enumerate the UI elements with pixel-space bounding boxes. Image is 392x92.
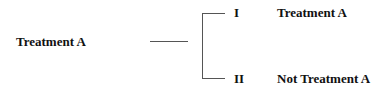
branch-label-2: Not Treatment A — [277, 72, 370, 86]
root-node: Treatment A — [16, 35, 86, 49]
branch-label-1: Treatment A — [277, 6, 347, 20]
bracket-vertical — [202, 13, 203, 79]
bracket-top-tick — [202, 13, 225, 14]
bracket-bottom-tick — [202, 78, 225, 79]
branch-numeral-1: I — [234, 6, 239, 20]
connector-line — [150, 41, 188, 42]
branch-numeral-2: II — [234, 72, 244, 86]
